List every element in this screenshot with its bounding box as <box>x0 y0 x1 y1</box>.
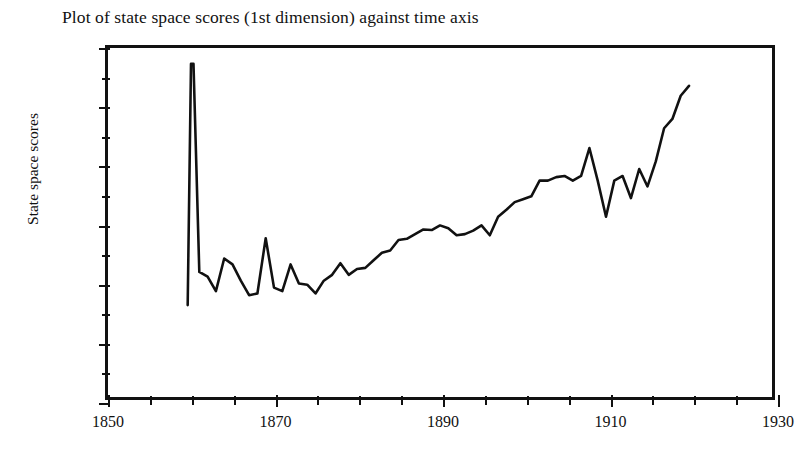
x-tick-minor <box>234 396 236 405</box>
x-tick-label: 1870 <box>241 414 311 430</box>
x-tick-label: 1930 <box>743 414 802 430</box>
x-tick-minor <box>192 396 194 405</box>
y-axis-title: State space scores <box>24 89 42 249</box>
x-tick-minor <box>359 396 361 405</box>
plot-area: 3.02.01.00.0− 1.0− 2.0− 3.0 185018701890… <box>105 45 775 400</box>
x-tick-minor <box>694 396 696 405</box>
x-tick-minor <box>569 396 571 405</box>
x-tick-major <box>778 395 780 407</box>
chart-title: Plot of state space scores (1st dimensio… <box>62 6 702 28</box>
chart-figure: Plot of state space scores (1st dimensio… <box>0 0 802 454</box>
x-tick-minor <box>736 396 738 405</box>
x-tick-minor <box>401 396 403 405</box>
x-tick-minor <box>317 396 319 405</box>
x-tick-minor <box>485 396 487 405</box>
data-plot-svg <box>108 48 772 397</box>
x-tick-minor <box>652 396 654 405</box>
x-tick-label: 1890 <box>408 414 478 430</box>
x-tick-label: 1910 <box>576 414 646 430</box>
x-tick-minor <box>150 396 152 405</box>
series-line-state-space-scores <box>188 64 689 305</box>
x-tick-minor <box>527 396 529 405</box>
x-tick-label: 1850 <box>73 414 143 430</box>
